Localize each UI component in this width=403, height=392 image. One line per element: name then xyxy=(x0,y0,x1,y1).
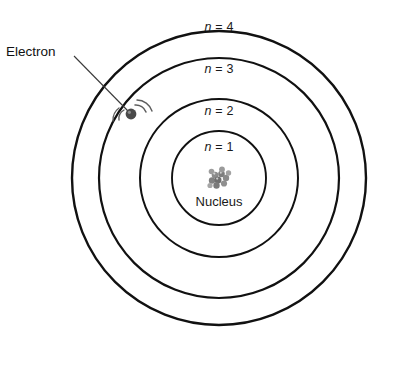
shell-label-n1-value: = 1 xyxy=(215,140,233,154)
nucleus-icon xyxy=(207,167,231,189)
shell-label-n2-symbol: n xyxy=(204,104,211,118)
shell-label-n4-symbol: n xyxy=(204,20,211,34)
shell-label-n3: n = 3 xyxy=(204,62,233,76)
electron-dot-highlight-icon xyxy=(128,111,131,114)
shell-label-n2: n = 2 xyxy=(204,104,233,118)
shell-label-n4-value: = 4 xyxy=(215,20,233,34)
shell-label-n1-symbol: n xyxy=(204,140,211,154)
shell-label-n3-value: = 3 xyxy=(215,62,233,76)
shell-label-n3-symbol: n xyxy=(204,62,211,76)
shell-label-n2-value: = 2 xyxy=(215,104,233,118)
shell-label-n4: n = 4 xyxy=(204,20,233,34)
electron-leader-line xyxy=(74,56,128,111)
shell-label-n1: n = 1 xyxy=(204,140,233,154)
electron-dot-icon xyxy=(126,109,137,120)
nucleus-label: Nucleus xyxy=(196,194,243,209)
electron-label: Electron xyxy=(6,44,56,59)
electron-motion-arcs-right xyxy=(135,100,152,112)
